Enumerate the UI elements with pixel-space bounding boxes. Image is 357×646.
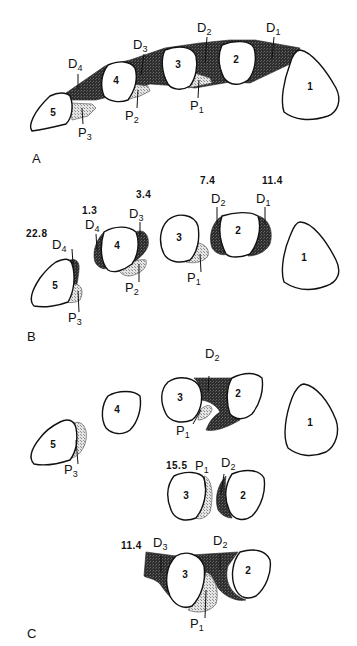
- panel-c-value-15-5: 15.5: [166, 461, 187, 471]
- panel-b-value-3-4: 3.4: [136, 190, 151, 200]
- panel-b-bone-4-number: 4: [114, 241, 120, 251]
- panel-c-label-p3: P3: [64, 463, 78, 479]
- panel-a-drawing: [31, 37, 339, 131]
- panel-b-value-11-4: 11.4: [262, 176, 283, 186]
- figure-canvas: [0, 0, 357, 646]
- panel-c-bone-5-number: 5: [50, 440, 56, 450]
- panel-c-label-d2-bot: D2: [213, 534, 227, 550]
- panel-a-bone-1-number: 1: [307, 82, 313, 92]
- panel-c-bone-1-number: 1: [307, 418, 313, 428]
- panel-a-label-p2: P2: [125, 109, 139, 125]
- panel-c-bone-2-bot-number: 2: [245, 566, 251, 576]
- panel-c-bone-4-number: 4: [114, 405, 120, 415]
- panel-c-label-p1-top: P1: [176, 424, 190, 440]
- panel-b-bone-1: [282, 222, 338, 289]
- panel-c-bone-2-top: [227, 374, 262, 419]
- panel-b-label-d4-4: D4: [85, 218, 99, 234]
- panel-b-label-d1: D1: [256, 192, 270, 208]
- panel-a-bone-4-number: 4: [113, 76, 119, 86]
- panel-b-value-1-3: 1.3: [82, 206, 97, 216]
- panel-c-label-d2-top: D2: [205, 347, 219, 363]
- panel-b-value-7-4: 7.4: [200, 176, 215, 186]
- panel-b-drawing: [31, 207, 339, 312]
- panel-c-label-d3-bot: D3: [153, 536, 167, 552]
- panel-c-bone-2-top-number: 2: [235, 389, 241, 399]
- panel-b-label-d3: D3: [129, 207, 143, 223]
- panel-a-label-d2: D2: [197, 21, 211, 37]
- panel-b-bone-2-number: 2: [235, 226, 241, 236]
- panel-c-bone-2-bot: [233, 550, 271, 598]
- panel-c-bone-3-mid-number: 3: [183, 491, 189, 501]
- panel-b-label-p1: P1: [187, 271, 201, 287]
- panel-a-label-d3: D3: [133, 38, 147, 54]
- panel-a-bone-3-number: 3: [175, 60, 181, 70]
- panel-b-label-p3: P3: [68, 311, 82, 327]
- panel-a-label-d1: D1: [266, 21, 280, 37]
- panel-b-label-p2: P2: [125, 281, 139, 297]
- panel-a-label-d4: D4: [68, 57, 82, 73]
- panel-b-title: B: [27, 330, 36, 343]
- panel-a-bone-5-number: 5: [50, 108, 56, 118]
- panel-a-title: A: [32, 152, 41, 165]
- panel-b-bone-1-number: 1: [301, 253, 307, 263]
- panel-c-title: C: [27, 627, 36, 640]
- panel-a-bone-2-number: 2: [233, 55, 239, 65]
- panel-c-bone-2-mid-number: 2: [240, 491, 246, 501]
- panel-c-label-d2-mid: D2: [221, 456, 235, 472]
- panel-b-label-d4-5: D4: [52, 238, 66, 254]
- panel-b-value-22-8: 22.8: [26, 229, 47, 239]
- panel-c-bone-3-bot-number: 3: [182, 570, 188, 580]
- panel-a-label-p3: P3: [78, 126, 92, 142]
- panel-c-value-11-4: 11.4: [121, 541, 142, 551]
- panel-b-label-d2: D2: [211, 192, 225, 208]
- panel-c-label-p1-bot: P1: [190, 617, 204, 633]
- panel-c-label-p1-mid: P1: [195, 459, 209, 475]
- panel-c-bone-3-top-number: 3: [177, 393, 183, 403]
- panel-c-bone-4: [102, 392, 140, 434]
- panel-b-bone-5-number: 5: [52, 281, 58, 291]
- panel-b-bone-3-number: 3: [176, 233, 182, 243]
- panel-a-label-p1: P1: [190, 99, 204, 115]
